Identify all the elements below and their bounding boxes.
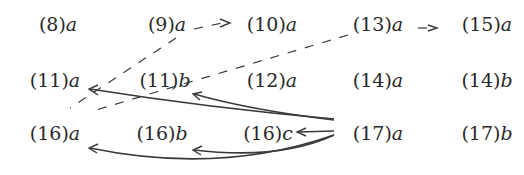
node-number: (16): [243, 122, 282, 144]
node-variable: b: [178, 69, 190, 91]
edge-17a-11a: [89, 85, 334, 119]
node-number: (16): [30, 122, 69, 144]
node-number: (10): [247, 13, 286, 35]
node-number: (17): [461, 122, 500, 144]
node-number: (16): [136, 122, 175, 144]
node-variable: a: [286, 13, 297, 35]
node-number: (12): [247, 69, 286, 91]
node-17b: (17)b: [461, 124, 512, 143]
diagram-canvas: (8)a (9)a (10)a (13)a (15)a (11)a (11)b …: [0, 0, 524, 175]
node-number: (8): [39, 13, 66, 35]
node-variable: a: [286, 69, 297, 91]
node-8a: (8)a: [39, 15, 77, 34]
node-number: (17): [353, 122, 392, 144]
node-variable: a: [66, 13, 77, 35]
node-variable: a: [175, 13, 186, 35]
node-14a: (14)a: [353, 71, 403, 90]
node-variable: b: [500, 69, 512, 91]
node-number: (9): [148, 13, 175, 35]
node-number: (13): [353, 13, 392, 35]
node-15a: (15)a: [462, 15, 512, 34]
node-16a: (16)a: [30, 124, 80, 143]
node-11b: (11)b: [139, 71, 190, 90]
node-16b: (16)b: [136, 124, 187, 143]
node-11a: (11)a: [30, 71, 80, 90]
node-16c: (16)c: [243, 124, 293, 143]
node-10a: (10)a: [247, 15, 297, 34]
node-variable: b: [500, 122, 512, 144]
node-variable: b: [175, 122, 187, 144]
node-14b: (14)b: [461, 71, 512, 90]
node-variable: c: [282, 122, 293, 144]
node-variable: a: [69, 69, 80, 91]
edge-13a-11b: [96, 35, 348, 110]
edge-9a-10a: [194, 19, 230, 29]
node-variable: a: [392, 122, 403, 144]
node-variable: a: [392, 13, 403, 35]
node-variable: a: [69, 122, 80, 144]
node-number: (11): [30, 69, 69, 91]
node-number: (14): [353, 69, 392, 91]
node-12a: (12)a: [247, 71, 297, 90]
node-number: (11): [139, 69, 178, 91]
node-variable: a: [501, 13, 512, 35]
edge-13a-15a: [418, 25, 437, 31]
edge-17a-16c: [297, 128, 334, 136]
node-variable: a: [392, 69, 403, 91]
node-9a: (9)a: [148, 15, 186, 34]
node-number: (14): [461, 69, 500, 91]
node-number: (15): [462, 13, 501, 35]
node-13a: (13)a: [353, 15, 403, 34]
node-17a: (17)a: [353, 124, 403, 143]
